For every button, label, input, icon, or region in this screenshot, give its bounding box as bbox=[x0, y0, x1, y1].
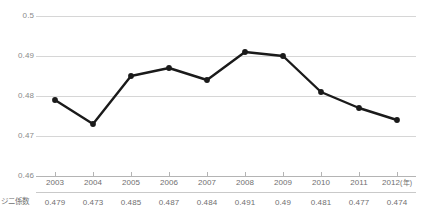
gini-coefficient-line-chart: 0.460.470.480.490.5 ジニ係数 200320042005200… bbox=[0, 0, 422, 217]
table-header-2006: 2006 bbox=[150, 179, 188, 187]
table-value-2010: 0.481 bbox=[302, 199, 340, 207]
y-tick-label-0.47: 0.47 bbox=[4, 132, 34, 140]
table-value-2012: 0.474 bbox=[378, 199, 416, 207]
data-point-2010 bbox=[318, 89, 324, 95]
data-point-2007 bbox=[204, 77, 210, 83]
x-tick-2006 bbox=[169, 172, 170, 176]
x-tick-2003 bbox=[55, 172, 56, 176]
x-tick-2012 bbox=[397, 172, 398, 176]
x-tick-2004 bbox=[93, 172, 94, 176]
data-point-2006 bbox=[166, 65, 172, 71]
x-axis-line bbox=[36, 176, 416, 177]
x-tick-2007 bbox=[207, 172, 208, 176]
table-header-2011: 2011 bbox=[340, 179, 378, 187]
table-value-2011: 0.477 bbox=[340, 199, 378, 207]
table-header-2009: 2009 bbox=[264, 179, 302, 187]
table-row-label: ジニ係数 bbox=[1, 198, 35, 206]
table-value-2009: 0.49 bbox=[264, 199, 302, 207]
y-tick-label-0.49: 0.49 bbox=[4, 52, 34, 60]
data-point-2003 bbox=[52, 97, 58, 103]
series-gini-coefficient bbox=[36, 16, 416, 176]
data-point-2004 bbox=[90, 121, 96, 127]
table-value-2008: 0.491 bbox=[226, 199, 264, 207]
data-point-2011 bbox=[356, 105, 362, 111]
table-value-2005: 0.485 bbox=[112, 199, 150, 207]
x-tick-2008 bbox=[245, 172, 246, 176]
table-header-2003: 2003 bbox=[36, 179, 74, 187]
table-separator-line bbox=[36, 192, 416, 193]
table-header-2007: 2007 bbox=[188, 179, 226, 187]
table-value-2003: 0.479 bbox=[36, 199, 74, 207]
table-value-2007: 0.484 bbox=[188, 199, 226, 207]
data-point-2008 bbox=[242, 49, 248, 55]
table-header-2010: 2010 bbox=[302, 179, 340, 187]
table-header-2008: 2008 bbox=[226, 179, 264, 187]
y-axis-tick-labels: 0.460.470.480.490.5 bbox=[0, 16, 34, 176]
data-point-2012 bbox=[394, 117, 400, 123]
series-line bbox=[55, 52, 397, 124]
table-value-2006: 0.487 bbox=[150, 199, 188, 207]
x-tick-2010 bbox=[321, 172, 322, 176]
x-tick-2011 bbox=[359, 172, 360, 176]
y-tick-label-0.5: 0.5 bbox=[4, 12, 34, 20]
table-header-2004: 2004 bbox=[74, 179, 112, 187]
table-header-text: 2012 bbox=[382, 178, 400, 187]
table-value-2004: 0.473 bbox=[74, 199, 112, 207]
data-point-2005 bbox=[128, 73, 134, 79]
x-axis-unit-label: (年) bbox=[400, 179, 412, 186]
data-point-2009 bbox=[280, 53, 286, 59]
table-header-2012: 2012(年) bbox=[378, 179, 416, 187]
y-tick-label-0.48: 0.48 bbox=[4, 92, 34, 100]
x-tick-2009 bbox=[283, 172, 284, 176]
y-tick-label-0.46: 0.46 bbox=[4, 172, 34, 180]
x-tick-2005 bbox=[131, 172, 132, 176]
table-header-2005: 2005 bbox=[112, 179, 150, 187]
